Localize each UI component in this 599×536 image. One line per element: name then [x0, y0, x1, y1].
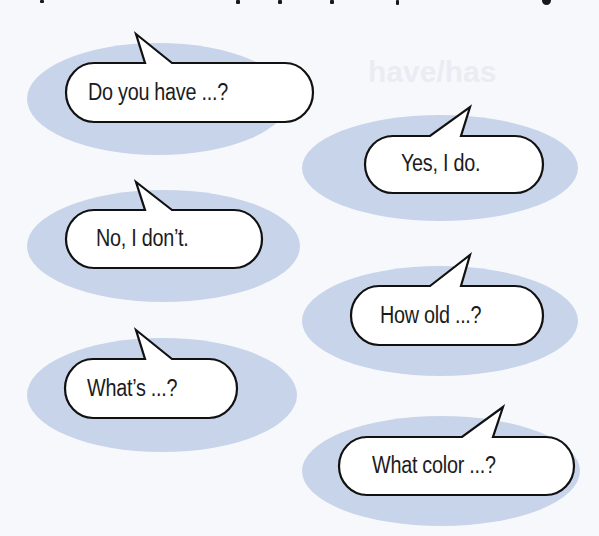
bubble-text: What color ...?: [372, 452, 496, 479]
bubble-text: Do you have ...?: [88, 79, 228, 106]
speech-bubble-no-i-dont: No, I don’t.: [64, 182, 264, 270]
speech-bubble-illustration: have/has Do you have ...? Yes, I do. No,…: [0, 0, 599, 536]
speech-bubble-do-you-have: Do you have ...?: [64, 34, 314, 124]
bubble-text: What’s ...?: [87, 375, 177, 402]
speech-bubble-yes-i-do: Yes, I do.: [365, 107, 545, 195]
speech-bubble-shape: [350, 255, 545, 347]
speech-bubble-whats: What’s ...?: [63, 330, 240, 420]
bubble-text: No, I don’t.: [96, 225, 189, 252]
bubble-text: Yes, I do.: [401, 150, 480, 177]
bubble-text: How old ...?: [380, 302, 481, 329]
ghost-heading: have/has: [368, 55, 496, 89]
speech-bubble-what-color: What color ...?: [337, 407, 577, 497]
speech-bubble-how-old: How old ...?: [350, 255, 545, 347]
